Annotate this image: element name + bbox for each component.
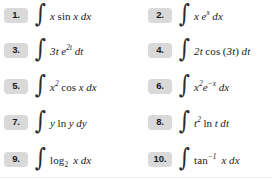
exercise-item-1[interactable]: 1. ∫ xsinxdx xyxy=(4,2,91,28)
exercise-number-badge: 5. xyxy=(4,79,28,94)
exercise-integrand-10: tan−1xdx xyxy=(194,154,240,166)
exercise-integrand-4: 2tcos(3t)dt xyxy=(194,45,250,57)
exercise-number-badge: 9. xyxy=(4,152,28,167)
exercise-number-badge: 7. xyxy=(4,115,28,130)
exercise-item-10[interactable]: 10. ∫ tan−1xdx xyxy=(148,146,240,172)
exercise-number-badge: 1. xyxy=(4,8,28,23)
exercise-number-badge: 8. xyxy=(148,115,172,130)
exercise-item-3[interactable]: 3. ∫ 3te2tdt xyxy=(4,37,83,63)
bottom-divider xyxy=(0,177,272,178)
exercise-integrand-6: x2e−xdx xyxy=(194,81,229,93)
exercise-integrand-5: x2cosxdx xyxy=(50,81,97,93)
exercise-integrand-2: xexdx xyxy=(194,10,223,22)
exercise-number-badge: 2. xyxy=(148,8,172,23)
exercise-number-badge: 6. xyxy=(148,79,172,94)
exercise-integrand-3: 3te2tdt xyxy=(50,45,83,57)
exercise-integrand-9: log2xdx xyxy=(50,154,91,166)
exercise-integrand-7: ylnydy xyxy=(50,117,87,129)
exercise-item-5[interactable]: 5. ∫ x2cosxdx xyxy=(4,73,97,99)
exercise-integrand-8: t2lntdt xyxy=(194,117,229,129)
exercise-list: 1. ∫ xsinxdx 2. ∫ xexdx 3. ∫ 3te2tdt 4. … xyxy=(0,0,272,179)
exercise-item-2[interactable]: 2. ∫ xexdx xyxy=(148,2,223,28)
exercise-number-badge: 3. xyxy=(4,43,28,58)
exercise-item-9[interactable]: 9. ∫ log2xdx xyxy=(4,146,91,172)
exercise-number-badge: 10. xyxy=(148,152,172,167)
exercise-item-7[interactable]: 7. ∫ ylnydy xyxy=(4,109,87,135)
exercise-item-6[interactable]: 6. ∫ x2e−xdx xyxy=(148,73,229,99)
exercise-number-badge: 4. xyxy=(148,43,172,58)
exercise-item-4[interactable]: 4. ∫ 2tcos(3t)dt xyxy=(148,37,250,63)
exercise-item-8[interactable]: 8. ∫ t2lntdt xyxy=(148,109,229,135)
exercise-integrand-1: xsinxdx xyxy=(50,10,91,22)
